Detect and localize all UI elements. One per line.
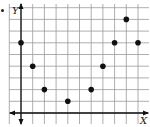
data-point [18,40,24,46]
x-axis-label: X [139,115,148,126]
scatter-plot: Y X [0,0,150,127]
y-axis-label: Y [12,5,20,16]
data-point [135,40,141,46]
data-point [42,87,48,93]
x-axis-left-arrow-icon [9,111,15,116]
data-point [124,17,130,23]
data-point [112,40,118,46]
y-axis-down-arrow-icon [19,119,24,125]
grid [9,4,149,124]
data-point [30,63,36,69]
data-point [100,63,106,69]
y-axis-up-arrow-icon [19,3,24,9]
data-point [65,99,71,105]
data-point [88,87,94,93]
